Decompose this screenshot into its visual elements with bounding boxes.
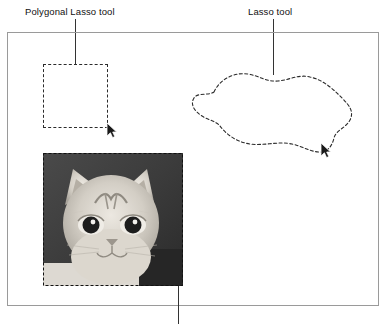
arrow-cursor-icon: [106, 122, 118, 139]
cat-photo-with-selection: [43, 153, 183, 286]
polygonal-lasso-selection-marquee: [43, 64, 108, 128]
label-lasso-tool: Lasso tool: [248, 7, 292, 17]
label-polygonal-lasso-tool: Polygonal Lasso tool: [25, 7, 115, 17]
figure-canvas: Polygonal Lasso tool Lasso tool: [0, 0, 387, 324]
arrow-cursor-icon: [320, 142, 332, 159]
leader-line-photo: [178, 286, 179, 324]
